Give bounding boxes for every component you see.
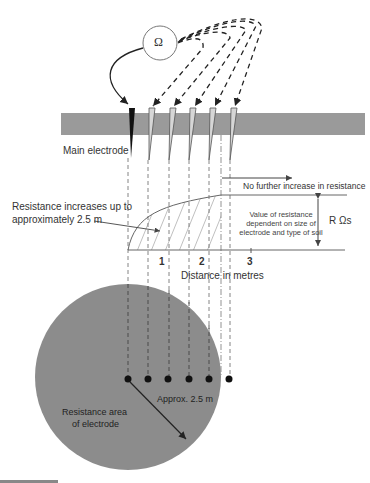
axis-tick-label-3: 3 — [247, 256, 253, 268]
approx-radius-label: Approx. 2.5 m — [157, 394, 213, 404]
distance-axis-label: Distance in metres — [181, 270, 264, 282]
resistance-area-label-1: Resistance area — [62, 407, 127, 417]
resistance-increases-label-1: Resistance increases up to — [12, 201, 132, 213]
resistance-area-label-2: of electrode — [72, 419, 119, 429]
axis-tick-label-1: 1 — [159, 256, 165, 268]
axis-tick-label-2: 2 — [199, 256, 205, 268]
diagram-canvas — [0, 0, 370, 483]
no-further-increase-label: No further increase in resistance — [243, 182, 365, 192]
value-dependent-label-3: electrode and type of soil — [236, 229, 326, 238]
main-electrode-label: Main electrode — [63, 145, 129, 157]
r-ohms-label: R Ωs — [329, 215, 351, 227]
main-lead-wire — [110, 48, 143, 104]
resistance-increases-label-2: approximately 2.5 m — [12, 214, 102, 226]
meter-symbol: Ω — [154, 36, 163, 50]
